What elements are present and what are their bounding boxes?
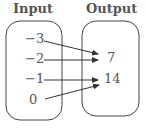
input-value: −1 (25, 71, 44, 86)
input-value: −3 (25, 31, 44, 46)
output-value: 7 (107, 50, 115, 65)
input-title: Input (13, 1, 53, 16)
mapping-diagram (0, 0, 145, 132)
output-box (82, 21, 139, 116)
input-value: −2 (25, 51, 44, 66)
output-title: Output (86, 1, 137, 16)
output-value: 14 (104, 71, 121, 86)
arrow-0-to-14 (45, 85, 99, 99)
arrow-neg3-to-7 (44, 41, 98, 54)
input-value: 0 (29, 92, 37, 107)
